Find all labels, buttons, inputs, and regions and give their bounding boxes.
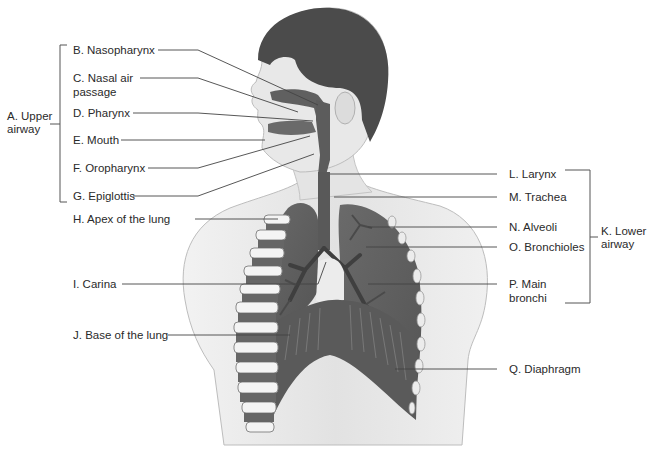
- label-nasal-air-passage-line1: C. Nasal air: [73, 72, 133, 85]
- label-mouth: E. Mouth: [73, 134, 119, 147]
- group-upper-airway-line1: A. Upper: [7, 110, 52, 123]
- label-alveoli: N. Alveoli: [509, 221, 557, 234]
- label-nasal-air-passage-line2: passage: [73, 86, 116, 99]
- group-upper-airway-line2: airway: [7, 123, 52, 136]
- label-base-of-lung: J. Base of the lung: [73, 329, 168, 342]
- label-larynx: L. Larynx: [509, 168, 556, 181]
- group-lower-airway-line2: airway: [601, 238, 646, 251]
- group-label-lower-airway: K. Lower airway: [601, 225, 646, 251]
- label-pharynx: D. Pharynx: [73, 107, 130, 120]
- group-lower-airway-line1: K. Lower: [601, 225, 646, 238]
- label-apex-of-lung: H. Apex of the lung: [73, 213, 170, 226]
- label-main-bronchi-line2: bronchi: [509, 292, 547, 305]
- bracket-lower-airway: [565, 170, 598, 303]
- ear: [335, 92, 355, 124]
- bracket-upper-airway: [50, 45, 67, 202]
- respiratory-diagram: A. Upper airway B. Nasopharynx C. Nasal …: [0, 0, 651, 470]
- label-epiglottis: G. Epiglottis: [73, 190, 135, 203]
- label-bronchioles: O. Bronchioles: [509, 241, 584, 254]
- label-nasopharynx: B. Nasopharynx: [73, 44, 155, 57]
- label-carina: I. Carina: [73, 278, 116, 291]
- label-diaphragm: Q. Diaphragm: [509, 363, 581, 376]
- oral-cavity: [268, 121, 316, 135]
- mediastinum: [316, 258, 344, 304]
- label-main-bronchi-line1: P. Main: [509, 278, 547, 291]
- group-label-upper-airway: A. Upper airway: [7, 110, 52, 136]
- anatomy-illustration: [0, 0, 651, 470]
- trachea: [318, 172, 330, 250]
- label-trachea: M. Trachea: [509, 191, 567, 204]
- label-oropharynx: F. Oropharynx: [73, 162, 145, 175]
